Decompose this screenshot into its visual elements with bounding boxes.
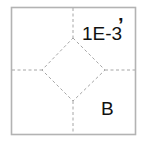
center-diamond bbox=[42, 38, 105, 101]
label-top-right: 1E-3 bbox=[82, 23, 122, 44]
label-bottom-right: B bbox=[101, 98, 114, 119]
diagram-canvas: 1E-3 ’ B bbox=[0, 0, 144, 141]
label-top-right-mark: ’ bbox=[118, 14, 124, 36]
